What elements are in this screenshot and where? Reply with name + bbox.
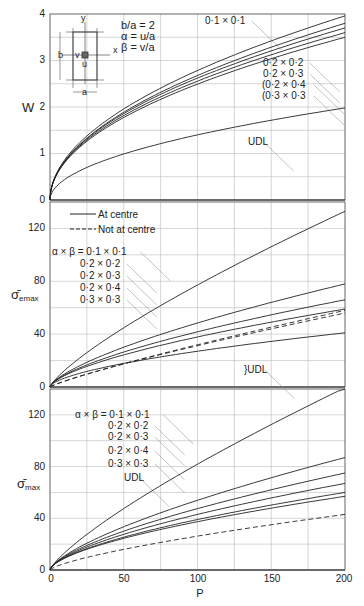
top-y-tick: 2 [39,101,45,112]
ratio-annotation: b/a = 2 α = u/a β = v/a [121,19,156,53]
x-ticks: 0 50 100 150 200 [48,573,353,584]
x-tick: 150 [264,573,281,584]
curve-label: α × β = 0·1 × 0·1 [75,409,150,420]
x-tick: 50 [118,573,130,584]
curve-label: 0·1 × 0·1 [205,15,246,26]
top-y-tick: 3 [39,54,45,65]
mid-y-tick: 80 [34,275,46,286]
leader-line [155,464,185,493]
bot-y-tick: 120 [28,409,45,420]
mid-y-ticks: 0 40 80 120 [28,222,45,392]
curve-label: 0·2 × 0·3 [108,431,149,442]
legend-dashed-label: Not at centre [98,224,156,235]
curve-label: 0·2 × 0·4 [108,445,149,456]
top-y-tick: 0 [39,194,45,205]
leader-line [252,21,282,50]
curve-label: α × β = 0·1 × 0·1 [52,246,127,257]
leader-lines [127,21,344,507]
x-tick: 100 [190,573,207,584]
top-y-ticks: 0 1 2 3 4 [39,8,45,205]
leader-line [127,288,157,317]
top-y-tick: 4 [39,8,45,19]
leader-line [140,252,170,281]
leader-line [314,85,344,114]
x-tick: 0 [48,573,54,584]
curve-label: 0·2 × 0·3 [263,68,304,79]
curve-labels: 0·1 × 0·10·2 × 0·20·2 × 0·3(0·2 × 0·4(0·… [52,15,306,483]
curve-label: }UDL [244,364,268,375]
curve-label: UDL [248,136,268,147]
mid-y-tick: 0 [39,381,45,392]
sigma-subscript: emax [19,294,39,303]
top-y-tick: 1 [39,147,45,158]
mid-y-axis-label: σ̄emax [11,287,39,303]
curve-label: 0·3 × 0·3 [80,294,121,305]
v-letter: v [75,50,80,60]
leader-line [310,74,340,103]
curve-label: 0·2 × 0·2 [80,258,121,269]
leader-line [127,264,157,293]
bot-y-ticks: 0 40 80 120 [28,409,45,575]
sigma-subscript: max [25,483,40,492]
curve-label: (0·3 × 0·3 [262,90,306,101]
mid-y-tick: 120 [28,222,45,233]
top-y-axis-label: W [22,100,35,115]
curve-label: 0·2 × 0·3 [80,270,121,281]
leader-line [127,300,157,329]
bot-y-tick: 80 [34,461,46,472]
curve-label: UDL [124,472,144,483]
load-patch [82,52,88,58]
b-letter: b [58,50,63,60]
y-axis-letter: y [81,13,86,23]
curve-label: 0·2 × 0·4 [80,282,121,293]
curve-label: (0·2 × 0·4 [262,79,306,90]
x-axis-letter: x [113,45,118,55]
leader-line [264,142,294,171]
leader-line [127,276,157,305]
bot-y-tick: 0 [39,564,45,575]
leader-line [155,451,185,480]
mid-y-tick: 40 [34,328,46,339]
legend: At centre Not at centre [70,209,156,235]
curve-label: 0·3 × 0·3 [108,458,149,469]
leader-line [265,370,295,399]
beta-text: β = v/a [121,41,155,53]
plate-diagram [60,22,110,92]
curve-label: 0·2 × 0·2 [108,420,149,431]
bot-y-axis-label: σ̄max [17,476,40,492]
bot-y-tick: 40 [34,512,46,523]
a-letter: a [82,87,87,97]
leader-line [310,63,340,92]
chart-figure: 0 1 2 3 4 W 0 40 80 120 σ̄emax 0 40 80 1… [0,0,364,606]
x-tick: 200 [336,573,353,584]
u-letter: u [82,59,87,69]
legend-solid-label: At centre [98,209,138,220]
x-axis-label: P [196,587,203,599]
leader-line [155,437,185,466]
curve-label: 0·2 × 0·2 [263,57,304,68]
leader-line [163,415,193,444]
